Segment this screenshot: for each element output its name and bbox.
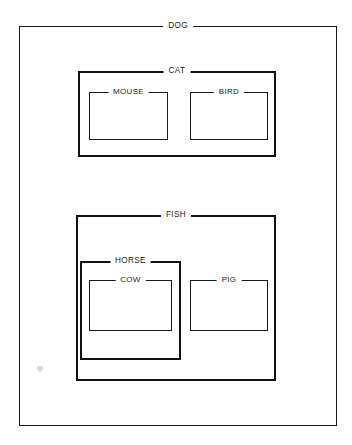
diagram-canvas: DOG CAT MOUSE BIRD FISH HORSE COW PIG bbox=[0, 0, 352, 445]
box-pig[interactable] bbox=[190, 280, 268, 331]
box-cow[interactable] bbox=[89, 280, 172, 331]
box-bird[interactable] bbox=[190, 92, 268, 140]
box-label-horse: HORSE bbox=[110, 257, 151, 265]
box-label-pig: PIG bbox=[217, 276, 242, 284]
box-label-fish: FISH bbox=[161, 211, 191, 219]
box-label-cow: COW bbox=[115, 276, 145, 284]
box-mouse[interactable] bbox=[89, 92, 168, 140]
box-label-cat: CAT bbox=[164, 67, 191, 75]
box-label-bird: BIRD bbox=[214, 88, 244, 96]
box-label-mouse: MOUSE bbox=[108, 88, 149, 96]
box-label-dog: DOG bbox=[163, 22, 193, 30]
